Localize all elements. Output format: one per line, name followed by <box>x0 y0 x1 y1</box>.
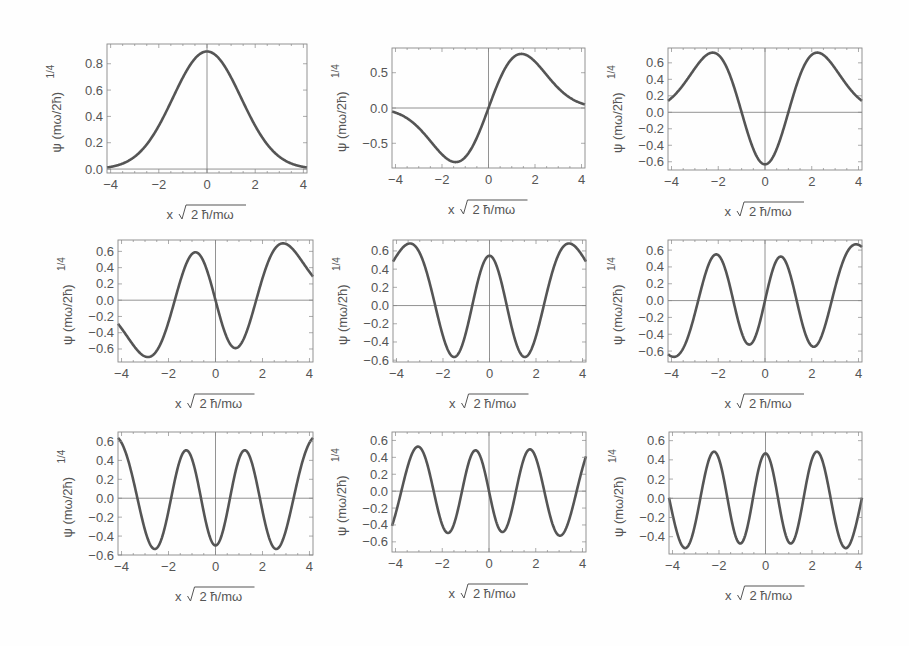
y-tick-label: 0.6 <box>646 55 664 70</box>
x-tick-label: 4 <box>578 172 585 187</box>
y-tick-label: 0.2 <box>371 280 389 295</box>
y-tick-label: 0.4 <box>647 452 665 467</box>
x-axis-label: x2 ħ/mω <box>449 584 529 601</box>
svg-text:x: x <box>448 202 455 217</box>
svg-text:x: x <box>725 588 732 603</box>
svg-text:ψ (mω/2ħ): ψ (mω/2ħ) <box>335 284 350 345</box>
axis-lines <box>669 432 862 554</box>
x-tick-label: 4 <box>306 559 313 574</box>
y-tick-label: 0.0 <box>96 293 114 308</box>
svg-text:1/4: 1/4 <box>330 64 341 78</box>
y-tick-label: 0.2 <box>96 472 114 487</box>
y-tick-label: 0.4 <box>370 450 388 465</box>
x-tick-label: 2 <box>252 177 259 192</box>
wavefunction-plot-n0: −4−20240.00.20.40.60.8x2 ħ/mωψ (mω/2ħ)1/… <box>45 40 313 235</box>
svg-text:2 ħ/mω: 2 ħ/mω <box>200 589 243 604</box>
x-axis-label: x2 ħ/mω <box>175 394 255 411</box>
y-tick-label: 0.2 <box>96 276 114 291</box>
svg-text:1/4: 1/4 <box>330 448 341 462</box>
svg-text:2 ħ/mω: 2 ħ/mω <box>473 202 516 217</box>
x-axis-ticks: −4−2024 <box>103 44 307 192</box>
x-tick-label: 4 <box>855 174 862 189</box>
y-tick-label: 0.6 <box>371 243 389 258</box>
y-tick-label: 0.0 <box>646 293 664 308</box>
svg-text:x: x <box>175 396 182 411</box>
y-tick-label: −0.6 <box>638 154 664 169</box>
y-tick-label: 0.6 <box>647 433 665 448</box>
wavefunction-plot-n1: −4−2024−0.50.00.5x2 ħ/mωψ (mω/2ħ)1/4 <box>330 44 591 230</box>
x-tick-label: 0 <box>761 366 768 381</box>
x-axis-label: x2 ħ/mω <box>725 394 805 411</box>
x-tick-label: 0 <box>762 558 769 573</box>
y-tick-label: −0.2 <box>88 510 114 525</box>
x-tick-label: −2 <box>435 556 450 571</box>
y-tick-label: −0.4 <box>639 529 665 544</box>
x-axis-label: x2 ħ/mω <box>725 586 805 603</box>
wavefunction-plot-n6: −4−2024−0.6−0.4−0.20.00.20.40.6x2 ħ/mωψ … <box>56 428 319 617</box>
wavefunction-plot-n8: −4−2024−0.4−0.20.00.20.40.6x2 ħ/mωψ (mω/… <box>607 428 868 616</box>
x-axis-label: x2 ħ/mω <box>448 200 528 217</box>
y-axis-label: ψ (mω/2ħ)1/4 <box>330 64 349 152</box>
y-tick-label: 0.2 <box>646 276 664 291</box>
svg-text:1/4: 1/4 <box>606 257 617 271</box>
svg-text:1/4: 1/4 <box>607 449 618 463</box>
svg-text:2 ħ/mω: 2 ħ/mω <box>474 396 517 411</box>
x-axis-label: x2 ħ/mω <box>167 205 247 222</box>
x-tick-label: 2 <box>808 174 815 189</box>
svg-text:x: x <box>167 207 174 222</box>
y-tick-label: 0.5 <box>370 65 388 80</box>
x-tick-label: −2 <box>711 174 726 189</box>
x-tick-label: −2 <box>436 366 451 381</box>
y-tick-label: −0.2 <box>638 121 664 136</box>
y-tick-label: −0.4 <box>88 325 114 340</box>
y-tick-label: 0.0 <box>371 298 389 313</box>
y-tick-label: −0.4 <box>363 334 389 349</box>
y-axis-label: ψ (mω/2ħ)1/4 <box>606 65 625 153</box>
y-tick-label: −0.5 <box>362 136 388 151</box>
svg-text:ψ (mω/2ħ): ψ (mω/2ħ) <box>334 475 349 536</box>
y-tick-label: 0.0 <box>370 484 388 499</box>
x-axis-label: x2 ħ/mω <box>175 587 255 604</box>
x-axis-label: x2 ħ/mω <box>449 394 529 411</box>
y-tick-label: 0.4 <box>646 259 664 274</box>
svg-text:1/4: 1/4 <box>331 257 342 271</box>
svg-text:1/4: 1/4 <box>56 257 67 271</box>
y-tick-label: −0.2 <box>362 501 388 516</box>
x-tick-label: 2 <box>808 366 815 381</box>
y-tick-label: 0.4 <box>96 260 114 275</box>
wavefunction-plot-n4: −4−2024−0.6−0.4−0.20.00.20.40.6x2 ħ/mωψ … <box>331 236 592 424</box>
y-tick-label: −0.6 <box>88 341 114 356</box>
x-tick-label: 4 <box>855 366 862 381</box>
y-tick-label: −0.6 <box>362 534 388 549</box>
y-tick-label: 0.2 <box>646 88 664 103</box>
x-tick-label: 0 <box>485 172 492 187</box>
x-tick-label: −4 <box>114 559 129 574</box>
x-tick-label: 4 <box>300 177 307 192</box>
svg-text:2 ħ/mω: 2 ħ/mω <box>473 586 516 601</box>
svg-text:x: x <box>449 586 456 601</box>
y-tick-label: 0.4 <box>85 109 103 124</box>
y-tick-label: −0.6 <box>88 548 114 563</box>
y-tick-label: −0.2 <box>88 309 114 324</box>
x-tick-label: −2 <box>161 559 176 574</box>
svg-text:2 ħ/mω: 2 ħ/mω <box>200 396 243 411</box>
y-tick-label: −0.4 <box>638 327 664 342</box>
x-tick-label: −2 <box>151 177 166 192</box>
x-tick-label: −4 <box>388 172 403 187</box>
y-axis-label: ψ (mω/2ħ)1/4 <box>56 449 75 537</box>
x-tick-label: 2 <box>259 366 266 381</box>
x-tick-label: −4 <box>665 558 680 573</box>
y-tick-label: 0.2 <box>85 135 103 150</box>
x-axis-ticks: −4−2024 <box>388 432 586 571</box>
svg-text:x: x <box>175 589 182 604</box>
x-tick-label: 4 <box>579 366 586 381</box>
svg-text:2 ħ/mω: 2 ħ/mω <box>750 588 793 603</box>
svg-text:x: x <box>725 396 732 411</box>
y-tick-label: 0.0 <box>96 491 114 506</box>
svg-text:2 ħ/mω: 2 ħ/mω <box>191 207 234 222</box>
x-tick-label: 0 <box>761 174 768 189</box>
y-tick-label: 0.0 <box>370 101 388 116</box>
svg-text:ψ (mω/2ħ): ψ (mω/2ħ) <box>334 91 349 152</box>
svg-text:2 ħ/mω: 2 ħ/mω <box>749 396 792 411</box>
y-tick-label: 0.4 <box>96 453 114 468</box>
